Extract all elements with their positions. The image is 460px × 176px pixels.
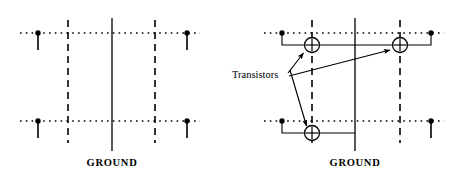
pin-dot xyxy=(35,30,40,35)
left-dotted-rows xyxy=(20,33,200,121)
transistor-upper-left xyxy=(305,38,320,53)
pin-top-left xyxy=(35,30,40,50)
pin-bottom-right xyxy=(184,118,189,138)
transistor-lower-left xyxy=(305,126,320,141)
pin-dot xyxy=(184,118,189,123)
transistor-upper-right xyxy=(393,38,408,53)
pin-bottom-right xyxy=(428,118,433,138)
panel-right: Transistors GROUND xyxy=(232,18,444,168)
pin-dot-top-right xyxy=(428,30,433,35)
panel-left: GROUND xyxy=(20,18,200,168)
right-dotted-rows xyxy=(264,33,444,121)
pin-bottom-left xyxy=(35,118,40,138)
pin-dot xyxy=(35,118,40,123)
diagram-canvas: GROUND xyxy=(0,0,460,176)
transistors-callout-leaders xyxy=(288,50,390,126)
transistors-callout-label: Transistors xyxy=(232,69,278,80)
ground-label-left: GROUND xyxy=(87,157,138,168)
ground-label-right: GROUND xyxy=(330,157,381,168)
pin-top-right xyxy=(184,30,189,50)
pin-dot xyxy=(184,30,189,35)
pin-dot-bottom-left xyxy=(279,118,284,123)
right-dashed-rails xyxy=(312,20,400,143)
pin-dot xyxy=(428,118,433,123)
circuit-diagram-figure: GROUND xyxy=(0,0,460,176)
leader-arrow-upper-right xyxy=(289,50,390,76)
right-pins xyxy=(279,30,433,138)
leader-arrow-lower-left xyxy=(290,70,307,126)
pin-dot-top-left xyxy=(279,30,284,35)
